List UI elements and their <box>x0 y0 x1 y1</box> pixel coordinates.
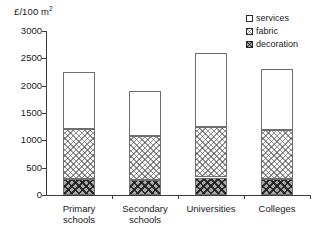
y-axis-title: £/100 m2 <box>14 6 53 18</box>
x-axis-category-label: Secondaryschools <box>112 203 178 225</box>
plot-area: 050010001500200025003000 PrimaryschoolsS… <box>46 31 310 195</box>
bar-segment-fabric[interactable] <box>195 127 227 178</box>
y-axis-tick <box>42 113 47 114</box>
bar-segment-decoration[interactable] <box>129 180 161 195</box>
x-axis-tick <box>112 195 113 199</box>
x-axis-tick <box>244 195 245 199</box>
bar-stack[interactable] <box>64 31 94 195</box>
y-axis-tick <box>42 168 47 169</box>
category-label-line1: Universities <box>186 203 235 214</box>
bar-segment-fabric[interactable] <box>63 129 95 178</box>
bar-stack[interactable] <box>130 31 160 195</box>
category-label-line1: Primary <box>63 203 96 214</box>
bar-segment-decoration[interactable] <box>195 178 227 195</box>
bar-segment-services[interactable] <box>261 69 293 130</box>
legend-item-services: services <box>246 12 324 25</box>
x-axis-category-label: Primaryschools <box>46 203 112 225</box>
y-axis-title-superscript: 2 <box>49 5 53 12</box>
y-axis-tick <box>42 86 47 87</box>
y-axis-tick-label: 500 <box>8 162 42 173</box>
y-axis-tick-label: 2500 <box>8 52 42 63</box>
chart-container: £/100 m2 services fabric decoration 0500… <box>0 0 328 240</box>
bar-segment-decoration[interactable] <box>63 179 95 195</box>
x-axis-category-label: Universities <box>178 203 244 214</box>
y-axis-title-text: £/100 m <box>14 6 49 17</box>
y-axis-tick-label: 1000 <box>8 134 42 145</box>
x-axis-category-label: Colleges <box>244 203 310 214</box>
category-label-line1: Secondary <box>122 203 167 214</box>
category-label-line1: Colleges <box>259 203 296 214</box>
y-axis-tick <box>42 140 47 141</box>
bar-stack[interactable] <box>262 31 292 195</box>
white-box-icon <box>246 15 253 22</box>
y-axis-tick <box>42 195 47 196</box>
legend-label-services: services <box>256 13 289 24</box>
bar-stack[interactable] <box>196 31 226 195</box>
y-axis-tick-label: 3000 <box>8 25 42 36</box>
y-axis-tick-label: 2000 <box>8 80 42 91</box>
y-axis-tick-label: 1500 <box>8 107 42 118</box>
y-axis-tick <box>42 58 47 59</box>
x-axis-tick <box>178 195 179 199</box>
bar-segment-services[interactable] <box>195 53 227 127</box>
category-label-line2: schools <box>112 214 178 225</box>
x-axis-tick <box>310 195 311 199</box>
category-label-line2: schools <box>46 214 112 225</box>
y-axis-tick <box>42 31 47 32</box>
bar-segment-decoration[interactable] <box>261 179 293 195</box>
bar-segment-fabric[interactable] <box>261 130 293 179</box>
bar-segment-services[interactable] <box>129 91 161 136</box>
bar-segment-fabric[interactable] <box>129 136 161 180</box>
bar-segment-services[interactable] <box>63 72 95 129</box>
y-axis-tick-label: 0 <box>8 189 42 200</box>
